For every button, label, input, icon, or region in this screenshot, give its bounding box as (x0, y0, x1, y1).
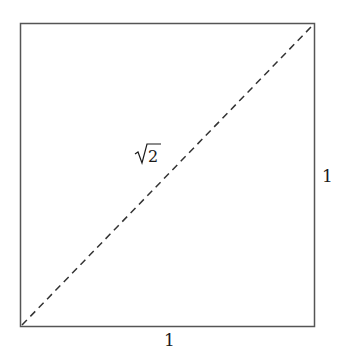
side-label-bottom: 1 (164, 330, 175, 350)
unit-square-diagram: 2 1 1 (0, 0, 343, 363)
side-label-right: 1 (322, 166, 333, 186)
diagonal-dashed-line (22, 26, 312, 325)
diagonal-radicand: 2 (148, 147, 158, 166)
diagonal-label-sqrt2: 2 (135, 144, 161, 166)
